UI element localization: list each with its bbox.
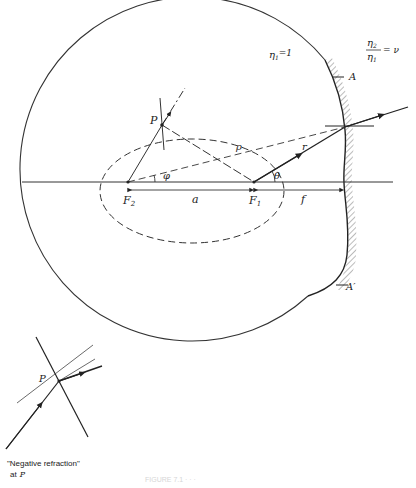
focus-F2-dot [126,180,129,183]
inset-refracted-arrow [59,373,83,381]
ray-rho [128,127,345,182]
surface-hatching [325,58,356,290]
inset-point-P [57,379,60,382]
label-rho: ρ [235,141,242,152]
P-arrow [162,113,170,125]
refraction-diagram: P F2 F1 a f r ρ φ θ A A′ η1=1 η2 η1 = ν … [0,0,416,488]
label-A: A [348,71,356,82]
inset-caption-line2: atP [10,470,26,479]
point-P-dot [160,123,164,127]
label-F2: F2 [122,194,136,208]
label-A-prime: A′ [345,281,356,292]
inset-incident-arrow [6,404,41,449]
label-eta1: η1=1 [269,48,292,61]
figure-caption: FIGURE 7.1 · · · [145,476,196,483]
angle-phi-arc [154,175,155,182]
inset-surface [36,337,88,437]
inset-negative-refraction: P "Negative refraction" atP [6,337,102,479]
dashed-ellipse [100,139,284,243]
label-theta: θ [274,170,280,181]
label-F1: F1 [248,194,261,208]
label-f: f [300,193,307,206]
label-P: P [149,114,158,127]
line-F2-P [128,125,162,182]
svg-text:η2: η2 [367,37,377,49]
inset-label-P: P [38,373,46,384]
label-refractive-ratio: η2 η1 = ν [366,37,399,63]
svg-text:η1: η1 [367,51,377,63]
label-phi: φ [163,170,170,181]
inset-caption-line1: "Negative refraction" [7,459,80,468]
svg-text:= ν: = ν [383,45,399,55]
focus-F1-dot [252,180,255,183]
label-a: a [192,193,199,206]
